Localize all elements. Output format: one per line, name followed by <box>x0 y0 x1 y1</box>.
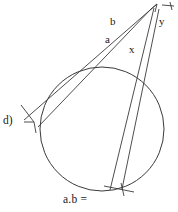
label-x: x <box>129 44 135 55</box>
item-label-d: d) <box>3 115 13 127</box>
line-y <box>122 9 159 189</box>
label-a: a <box>105 34 110 45</box>
label-y: y <box>159 16 165 27</box>
label-b: b <box>110 16 116 27</box>
line-b <box>24 4 157 120</box>
expression-label: a.b = <box>63 194 87 206</box>
figure-canvas <box>0 0 178 212</box>
line-x <box>110 8 154 190</box>
left-arrowhead-icon <box>21 105 36 133</box>
line-a <box>38 8 152 127</box>
geometry-figure: b a x y d) a.b = <box>0 0 178 212</box>
apex-tick-mark-icon <box>162 2 174 10</box>
circle-shape <box>40 67 164 191</box>
